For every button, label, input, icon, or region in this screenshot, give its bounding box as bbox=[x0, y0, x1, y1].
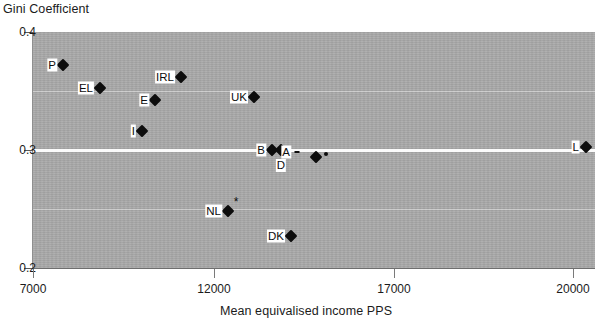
point-label-d: D bbox=[276, 159, 286, 172]
point-label-irl: IRL bbox=[155, 71, 175, 84]
dot-marker-icon bbox=[324, 152, 328, 156]
gridline-minor bbox=[33, 209, 595, 210]
x-tick-label: 7000 bbox=[20, 282, 47, 296]
x-tick-mark bbox=[573, 269, 574, 278]
x-axis-title: Mean equivalised income PPS bbox=[0, 304, 612, 318]
x-tick-label: 17000 bbox=[377, 282, 410, 296]
point-label-nl: NL bbox=[205, 205, 222, 218]
point-label-b: B bbox=[256, 144, 266, 157]
point-label-e: E bbox=[139, 94, 149, 107]
annotation-asterisk: * bbox=[234, 198, 239, 206]
y-tick-label: 0.4 bbox=[19, 25, 36, 39]
x-tick-mark bbox=[394, 269, 395, 278]
diamond-marker-icon bbox=[310, 151, 323, 164]
diamond-marker-icon bbox=[222, 205, 235, 218]
diamond-marker-icon bbox=[149, 94, 162, 107]
diamond-marker-icon bbox=[248, 91, 261, 104]
diamond-marker-icon bbox=[57, 59, 70, 72]
gridline-minor bbox=[33, 91, 595, 92]
diamond-marker-icon bbox=[285, 230, 298, 243]
x-tick-label: 20000 bbox=[556, 282, 589, 296]
tick-marker-icon bbox=[295, 151, 300, 153]
diamond-marker-icon bbox=[136, 125, 149, 138]
point-label-dk: DK bbox=[267, 230, 285, 243]
point-label-i: I bbox=[131, 125, 136, 138]
x-axis-line bbox=[33, 268, 595, 269]
x-tick-mark bbox=[33, 269, 34, 278]
point-label-p: P bbox=[47, 59, 57, 72]
diamond-marker-icon bbox=[94, 82, 107, 95]
x-tick-mark bbox=[214, 269, 215, 278]
plot-area: PELIRLEIUKBDALNLDK* bbox=[33, 32, 595, 268]
scatter-chart-figure: Gini Coefficient PELIRLEIUKBDALNLDK* 0.4… bbox=[0, 0, 612, 323]
point-label-el: EL bbox=[78, 82, 94, 95]
point-label-uk: UK bbox=[230, 91, 248, 104]
x-tick-label: 12000 bbox=[197, 282, 230, 296]
y-tick-label: 0.3 bbox=[19, 143, 36, 157]
y-axis-title: Gini Coefficient bbox=[3, 2, 89, 16]
diamond-marker-icon bbox=[175, 71, 188, 84]
point-label-a: A bbox=[281, 146, 291, 159]
point-label-l: L bbox=[572, 141, 580, 154]
